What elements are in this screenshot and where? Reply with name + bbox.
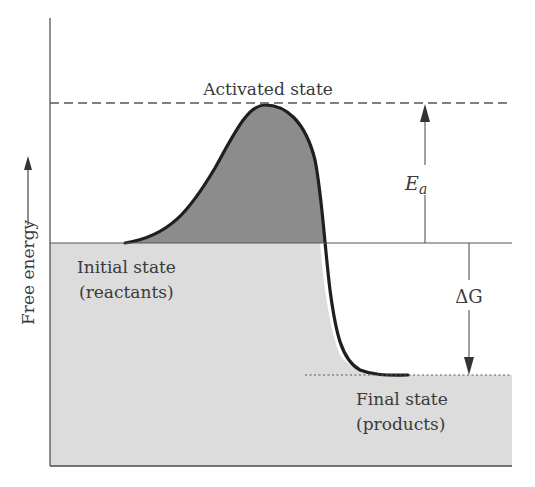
energy-diagram: Activated state Initial state (reactants… (0, 0, 535, 487)
final-state-label: Final state (356, 389, 448, 409)
y-axis-label-group: Free energy (18, 219, 38, 325)
ea-arrowhead-icon (420, 104, 430, 122)
dg-arrowhead-icon (464, 357, 474, 375)
final-state-sublabel: (products) (356, 414, 445, 434)
delta-g-label: ΔG (455, 286, 482, 307)
y-axis-arrowhead-icon (24, 156, 32, 170)
y-axis-label: Free energy (18, 219, 38, 325)
activation-barrier (125, 105, 325, 243)
activated-state-label: Activated state (202, 79, 333, 99)
initial-state-label: Initial state (77, 257, 176, 277)
initial-state-sublabel: (reactants) (79, 282, 174, 302)
